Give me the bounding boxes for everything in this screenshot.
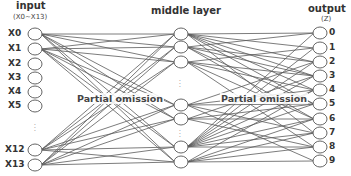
output-label-3: 3	[329, 70, 335, 80]
output-label-4: 4	[329, 84, 335, 94]
input-label-x13: X13	[5, 159, 24, 169]
middle-node-6	[174, 156, 188, 168]
edge	[41, 119, 175, 165]
edge	[187, 161, 314, 162]
input-label-x5: X5	[8, 100, 21, 110]
middle-node-2	[174, 56, 188, 68]
input-label-x1: X1	[8, 43, 21, 53]
input-node-x5	[28, 100, 42, 112]
partial-omission-left-label: Partial omission	[76, 93, 164, 104]
output-node-7	[313, 127, 327, 139]
middle-node-1	[174, 41, 188, 53]
edge	[187, 33, 314, 34]
output-layer-subtitle: (Z)	[321, 15, 331, 23]
middle-nodes	[174, 28, 188, 168]
middle-ellipsis-upper: ···	[178, 79, 182, 88]
input-label-x4: X4	[8, 86, 21, 96]
input-node-x4	[28, 86, 42, 98]
input-label-x2: X2	[8, 58, 21, 68]
edge	[187, 33, 314, 147]
input-layer-title: input	[16, 0, 46, 11]
input-label-x0: X0	[8, 28, 21, 38]
output-node-3	[313, 70, 327, 82]
output-label-0: 0	[329, 27, 335, 37]
input-label-x12: X12	[5, 144, 24, 154]
edge	[41, 49, 175, 119]
edge	[187, 34, 314, 48]
output-label-1: 1	[329, 42, 335, 52]
input-nodes	[28, 28, 42, 171]
edge	[187, 76, 314, 147]
edge	[187, 47, 314, 76]
input-node-x1	[28, 43, 42, 55]
edge	[187, 62, 314, 76]
output-node-1	[313, 42, 327, 54]
output-node-5	[313, 98, 327, 110]
input-layer-subtitle: (X0~X13)	[13, 13, 47, 21]
input-node-x0	[28, 28, 42, 40]
edge	[187, 133, 314, 147]
output-node-8	[313, 141, 327, 153]
output-nodes	[313, 27, 327, 167]
output-node-2	[313, 56, 327, 68]
output-node-9	[313, 155, 327, 167]
partial-omission-right-label: Partial omission	[220, 93, 308, 104]
input-node-x3	[28, 72, 42, 84]
middle-ellipsis-lower: ···	[178, 129, 182, 138]
output-label-8: 8	[329, 141, 335, 151]
output-label-7: 7	[329, 127, 335, 137]
edge	[187, 62, 314, 90]
output-label-2: 2	[329, 56, 335, 66]
edge	[41, 47, 175, 49]
middle-node-3	[174, 99, 188, 111]
output-node-0	[313, 27, 327, 39]
middle-node-5	[174, 141, 188, 153]
output-label-6: 6	[329, 113, 335, 123]
output-label-5: 5	[329, 98, 335, 108]
input-node-x2	[28, 58, 42, 70]
middle-layer-title: middle layer	[151, 5, 221, 16]
output-node-4	[313, 84, 327, 96]
edge	[187, 34, 314, 90]
input-node-x12	[28, 144, 42, 156]
output-node-6	[313, 113, 327, 125]
edge	[187, 133, 314, 162]
middle-node-0	[174, 28, 188, 40]
output-layer-title: output	[308, 3, 346, 14]
input-label-x3: X3	[8, 72, 21, 82]
input-node-x13	[28, 159, 42, 171]
edge	[187, 147, 314, 162]
output-label-9: 9	[329, 155, 335, 165]
middle-node-4	[174, 113, 188, 125]
input-ellipsis: ···	[33, 123, 37, 132]
neural-network-diagram	[0, 0, 351, 176]
